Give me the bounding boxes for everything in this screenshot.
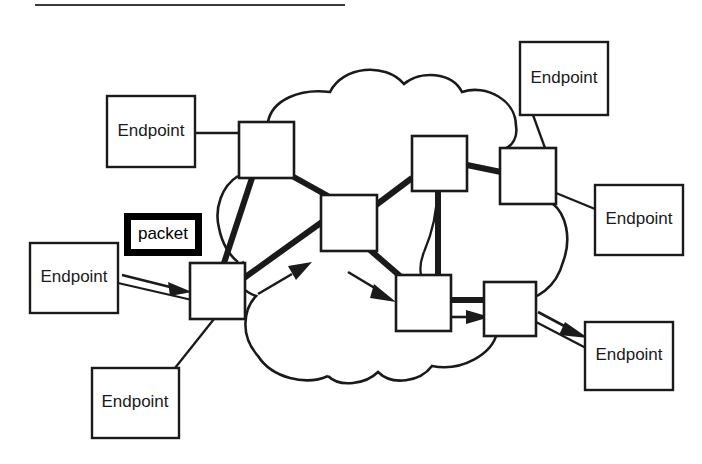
router-nw[interactable] (239, 122, 294, 178)
link-endpoint-right-middle (556, 193, 595, 209)
link-endpoint-right-top (533, 115, 545, 148)
link-n-ne (467, 165, 501, 172)
endpoint-right-bottom-label: Endpoint (595, 345, 662, 364)
diagram-canvas: Endpoint Endpoint Endpoint Endpoint Endp… (0, 0, 702, 464)
endpoint-left-middle-label: Endpoint (40, 267, 107, 286)
endpoint-right-bottom[interactable]: Endpoint (585, 322, 673, 390)
endpoint-right-middle[interactable]: Endpoint (595, 185, 683, 255)
link-endpoint-left-bottom (175, 319, 214, 368)
router-s[interactable] (396, 275, 451, 331)
endpoint-right-middle-label: Endpoint (605, 209, 672, 228)
link-sw-center (244, 222, 322, 278)
link-nw-sw (224, 178, 252, 263)
router-nodes (190, 122, 556, 336)
router-center[interactable] (321, 195, 377, 251)
link-center-s (370, 250, 400, 276)
endpoint-right-top-label: Endpoint (530, 68, 597, 87)
router-sw[interactable] (190, 263, 245, 319)
link-center-n (376, 178, 412, 205)
endpoint-left-middle[interactable]: Endpoint (30, 243, 118, 313)
router-se[interactable] (484, 282, 536, 336)
endpoint-right-top[interactable]: Endpoint (520, 42, 608, 115)
endpoint-left-top[interactable]: Endpoint (107, 96, 195, 167)
endpoint-left-bottom[interactable]: Endpoint (92, 368, 179, 438)
arrow-router-sw-to-center (258, 262, 312, 294)
packet-badge[interactable]: packet (124, 213, 202, 256)
link-nw-center (292, 176, 328, 196)
endpoint-left-top-label: Endpoint (117, 121, 184, 140)
arrow-center-to-router-s (348, 272, 396, 302)
endpoint-left-bottom-label: Endpoint (101, 392, 168, 411)
link-router-s-stub (420, 252, 424, 275)
packet-badge-label: packet (138, 224, 188, 243)
router-n[interactable] (412, 136, 467, 191)
network-diagram: Endpoint Endpoint Endpoint Endpoint Endp… (0, 0, 702, 464)
router-ne[interactable] (500, 148, 556, 204)
arrow-router-se-to-endpoint (538, 312, 588, 338)
